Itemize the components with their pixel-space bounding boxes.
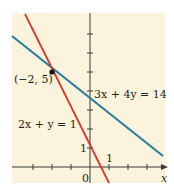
origin-label: 0 <box>82 172 89 185</box>
x-axis-label: x <box>161 172 168 185</box>
line-graph: (−2, 5) 3x + 4y = 14 2x + y = 1 1 1 0 x <box>0 0 174 195</box>
x-tick-label-1: 1 <box>106 152 113 165</box>
equation-red-label: 2x + y = 1 <box>18 118 77 131</box>
equation-blue-label: 3x + 4y = 14 <box>94 88 167 101</box>
y-tick-label-1: 1 <box>80 142 87 155</box>
point-label: (−2, 5) <box>14 73 53 86</box>
